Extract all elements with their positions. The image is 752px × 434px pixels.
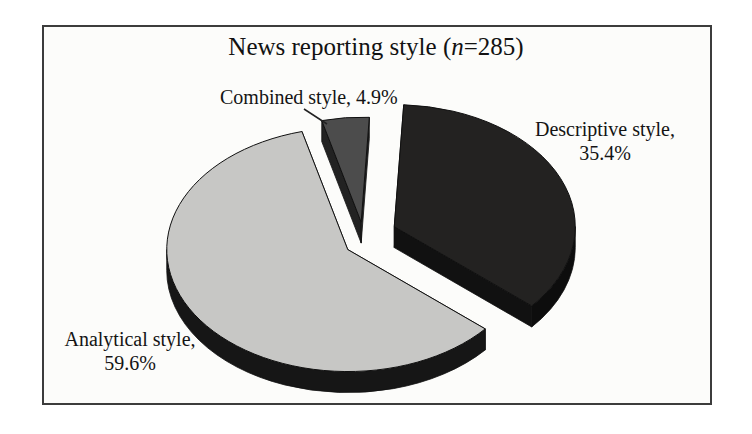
leader-line-combined [304, 109, 327, 124]
label-descriptive-style: Descriptive style, 35.4% [502, 117, 708, 165]
label-analytical-style: Analytical style, 59.6% [36, 327, 224, 375]
label-descriptive-line1: Descriptive style, [502, 117, 708, 141]
label-descriptive-pct: 35.4% [502, 141, 708, 165]
label-combined-style: Combined style, 4.9% [220, 85, 398, 109]
label-analytical-line1: Analytical style, [36, 327, 224, 351]
chart-title-n-variable: n [451, 33, 464, 60]
chart-title-post: =285) [464, 33, 524, 60]
label-analytical-pct: 59.6% [36, 351, 224, 375]
chart-title: News reporting style (n=285) [44, 32, 708, 62]
chart-title-pre: News reporting style ( [228, 33, 451, 60]
